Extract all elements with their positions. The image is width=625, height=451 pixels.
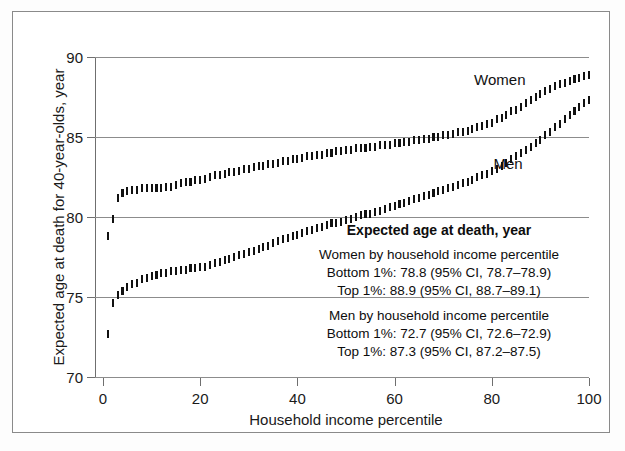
data-marker	[107, 232, 109, 240]
data-marker	[544, 87, 546, 95]
data-marker	[394, 202, 396, 210]
data-marker	[583, 99, 585, 107]
data-marker	[471, 125, 473, 133]
data-marker	[496, 115, 498, 123]
data-marker	[501, 114, 503, 122]
data-marker	[209, 173, 211, 181]
data-marker	[462, 128, 464, 136]
x-tick-label-80: 80	[483, 390, 500, 407]
data-marker	[432, 133, 434, 141]
data-marker	[330, 149, 332, 157]
data-marker	[204, 175, 206, 183]
series-label-women: Women	[474, 71, 525, 88]
data-marker	[253, 163, 255, 171]
data-marker	[121, 189, 123, 197]
data-marker	[165, 269, 167, 277]
annotation-men-group: Men by household income percentile Botto…	[289, 307, 589, 360]
data-marker	[136, 186, 138, 194]
annotation-men-bottom: Bottom 1%: 72.7 (95% CI, 72.6–72.9)	[289, 325, 589, 343]
data-marker	[578, 103, 580, 111]
series-label-men: Men	[494, 155, 523, 172]
x-tick-40	[297, 378, 298, 386]
data-marker	[384, 141, 386, 149]
data-marker	[160, 184, 162, 192]
figure-container: 7075808590 020406080100 Women Men Expect…	[0, 0, 625, 451]
data-marker	[481, 122, 483, 130]
data-marker	[175, 267, 177, 275]
data-marker	[112, 215, 114, 223]
y-tick-label-90: 90	[66, 49, 83, 66]
data-marker	[379, 141, 381, 149]
data-marker	[505, 111, 507, 119]
data-marker	[219, 171, 221, 179]
data-marker	[369, 143, 371, 151]
data-marker	[277, 159, 279, 167]
data-marker	[462, 179, 464, 187]
data-marker	[544, 131, 546, 139]
data-marker	[180, 266, 182, 274]
x-tick-label-100: 100	[576, 390, 601, 407]
data-marker	[476, 123, 478, 131]
annotation-men-top: Top 1%: 87.3 (95% CI, 87.2–87.5)	[289, 343, 589, 361]
data-marker	[360, 144, 362, 152]
x-tick-20	[200, 378, 201, 386]
data-marker	[379, 207, 381, 215]
data-marker	[214, 171, 216, 179]
gridline-y-85	[95, 137, 589, 138]
annotation-women-group: Women by household income percentile Bot…	[289, 246, 589, 299]
data-marker	[224, 170, 226, 178]
data-marker	[287, 157, 289, 165]
data-marker	[491, 119, 493, 127]
data-marker	[442, 131, 444, 139]
data-marker	[569, 111, 571, 119]
data-marker	[296, 155, 298, 163]
data-marker	[170, 267, 172, 275]
data-marker	[564, 79, 566, 87]
data-marker	[481, 171, 483, 179]
data-marker	[510, 107, 512, 115]
data-marker	[457, 128, 459, 136]
data-marker	[131, 186, 133, 194]
data-marker	[549, 85, 551, 93]
data-marker	[578, 74, 580, 82]
data-marker	[224, 256, 226, 264]
data-marker	[146, 274, 148, 282]
data-marker	[467, 127, 469, 135]
data-marker	[262, 162, 264, 170]
data-marker	[126, 283, 128, 291]
data-marker	[170, 183, 172, 191]
data-marker	[554, 82, 556, 90]
data-marker	[573, 107, 575, 115]
data-marker	[160, 269, 162, 277]
x-tick-60	[395, 378, 396, 386]
data-marker	[228, 255, 230, 263]
data-marker	[559, 80, 561, 88]
data-marker	[418, 194, 420, 202]
y-tick-90	[87, 57, 95, 58]
data-marker	[194, 176, 196, 184]
data-marker	[442, 186, 444, 194]
data-marker	[175, 181, 177, 189]
data-marker	[515, 106, 517, 114]
data-marker	[573, 75, 575, 83]
y-tick-80	[87, 217, 95, 218]
data-marker	[194, 264, 196, 272]
data-marker	[180, 179, 182, 187]
y-tick-85	[87, 137, 95, 138]
data-marker	[253, 247, 255, 255]
data-marker	[141, 184, 143, 192]
annotation-block: Expected age at death, year Women by hou…	[289, 221, 589, 360]
data-marker	[306, 152, 308, 160]
data-marker	[535, 93, 537, 101]
data-marker	[530, 143, 532, 151]
data-marker	[345, 146, 347, 154]
data-marker	[262, 243, 264, 251]
data-marker	[243, 250, 245, 258]
data-marker	[530, 96, 532, 104]
y-tick-label-85: 85	[66, 129, 83, 146]
data-marker	[569, 77, 571, 85]
data-marker	[282, 235, 284, 243]
data-marker	[214, 259, 216, 267]
annotation-women-top: Top 1%: 88.9 (95% CI, 88.7–89.1)	[289, 282, 589, 300]
x-tick-label-60: 60	[386, 390, 403, 407]
